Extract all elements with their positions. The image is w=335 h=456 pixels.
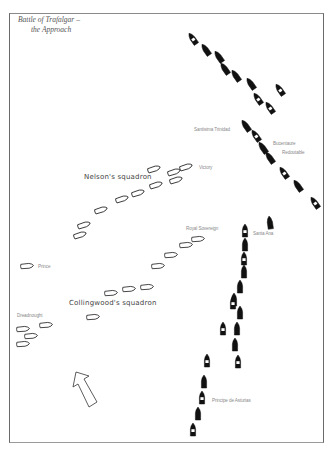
british-ship bbox=[149, 181, 163, 190]
battle-map bbox=[0, 0, 335, 456]
british-ship bbox=[115, 195, 129, 204]
enemy-ship bbox=[241, 265, 246, 278]
enemy-ship bbox=[200, 43, 212, 57]
british-ship bbox=[122, 286, 135, 292]
enemy-ship bbox=[309, 196, 321, 210]
british-ship bbox=[151, 263, 164, 269]
british-ship bbox=[16, 341, 29, 347]
enemy-ship bbox=[213, 50, 225, 64]
enemy-ship bbox=[252, 92, 264, 106]
enemy-ship bbox=[234, 322, 239, 335]
enemy-ship bbox=[219, 62, 231, 76]
label-redoutable: Redoutable bbox=[282, 150, 305, 155]
british-ship bbox=[24, 333, 37, 339]
enemy-ship bbox=[187, 32, 199, 46]
enemy-ship bbox=[245, 77, 257, 91]
combined-fleet-van bbox=[187, 32, 286, 115]
enemy-ship bbox=[199, 391, 204, 404]
british-ship bbox=[104, 290, 117, 296]
british-ship bbox=[140, 284, 153, 290]
british-ship bbox=[39, 322, 52, 328]
enemy-ship bbox=[237, 280, 242, 293]
enemy-ship bbox=[230, 69, 242, 83]
british-ship bbox=[169, 176, 183, 185]
enemy-ship bbox=[274, 83, 286, 97]
enemy-ship bbox=[237, 306, 242, 319]
british-ship bbox=[147, 165, 161, 174]
enemy-ship bbox=[242, 238, 247, 251]
label-santisima-trinidad: Santisima Trinidad bbox=[194, 127, 230, 132]
wind-direction-arrow bbox=[73, 372, 97, 407]
label-victory: Victory bbox=[199, 165, 212, 170]
british-ship bbox=[94, 206, 108, 215]
label-prince: Prince bbox=[38, 264, 50, 269]
british-ship bbox=[86, 314, 99, 320]
label-dreadnought: Dreadnought bbox=[17, 313, 42, 318]
collingwood-squadron-label: Collingwood's squadron bbox=[69, 299, 157, 307]
enemy-ship bbox=[195, 407, 200, 420]
enemy-ship bbox=[250, 129, 262, 143]
enemy-ship bbox=[242, 224, 247, 237]
enemy-ship bbox=[241, 252, 246, 265]
british-ship bbox=[167, 168, 181, 177]
label-royal-sovereign: Royal Sovereign bbox=[186, 226, 218, 231]
map-title-line1: Battle of Trafalgar – bbox=[18, 15, 80, 25]
enemy-ship bbox=[204, 354, 209, 367]
nelson-squadron-label: Nelson's squadron bbox=[84, 173, 152, 181]
enemy-ship bbox=[190, 423, 195, 436]
enemy-ship bbox=[292, 179, 304, 193]
british-ship bbox=[73, 231, 87, 240]
enemy-ship bbox=[235, 355, 240, 368]
collingwood-squadron-ships bbox=[16, 236, 204, 347]
enemy-ship bbox=[232, 338, 237, 351]
enemy-ship bbox=[264, 101, 276, 115]
british-ship bbox=[77, 221, 91, 230]
enemy-ship bbox=[220, 322, 225, 335]
label-principe-de-asturias: Principe de Asturias bbox=[212, 398, 251, 403]
enemy-ship bbox=[201, 375, 206, 388]
british-ship-dreadnought bbox=[16, 326, 29, 332]
label-bucentaure: Bucentaure bbox=[273, 141, 296, 146]
combined-fleet-centre bbox=[240, 119, 321, 210]
british-ship-prince bbox=[20, 263, 33, 269]
label-santa-ana: Santa Ana bbox=[253, 231, 273, 236]
british-ship bbox=[131, 189, 145, 198]
enemy-ship bbox=[278, 166, 290, 180]
british-ship bbox=[191, 236, 204, 242]
enemy-ship bbox=[266, 216, 273, 230]
british-ship bbox=[179, 242, 192, 248]
map-title-line2: the Approach bbox=[31, 25, 71, 35]
british-ship bbox=[179, 163, 193, 172]
british-ship bbox=[164, 252, 177, 258]
enemy-ship bbox=[240, 119, 252, 133]
